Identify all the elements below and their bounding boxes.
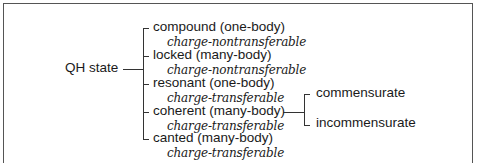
node-compound: compound (one-body): [153, 19, 285, 34]
sub-bracket: [304, 94, 305, 126]
tick-compound: [143, 28, 149, 29]
tick-resonant: [143, 84, 149, 85]
node-canted: canted (many-body): [153, 130, 273, 145]
root-node: QH state: [65, 60, 118, 75]
tick-canted: [143, 139, 149, 140]
node-resonant: resonant (one-body): [153, 75, 275, 90]
node-coherent: coherent (many-body): [153, 103, 285, 118]
node-commensurate: commensurate: [316, 85, 405, 100]
node-locked: locked (many-body): [153, 47, 272, 62]
node-canted-sublabel: charge-transferable: [167, 146, 284, 160]
root-connector: [123, 69, 143, 70]
tick-coherent: [143, 112, 149, 113]
tick-incommensurate: [304, 125, 310, 126]
coherent-connector: [283, 112, 304, 113]
node-incommensurate: incommensurate: [316, 115, 416, 130]
tick-commensurate: [304, 94, 310, 95]
tick-locked: [143, 56, 149, 57]
